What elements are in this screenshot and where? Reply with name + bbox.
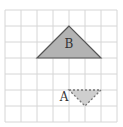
triangle-b-label: B — [65, 37, 74, 51]
grid-diagram: B A — [0, 0, 123, 127]
grid-lines — [5, 10, 117, 122]
triangle-a-label: A — [59, 90, 69, 104]
triangle-a — [69, 90, 101, 106]
